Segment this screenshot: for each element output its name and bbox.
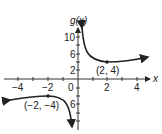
y-tick-label: 6 (70, 49, 76, 60)
y-tick-label: 2 (70, 65, 76, 76)
x-tick-label: 0 (68, 82, 74, 93)
graph: −4 −2 0 2 4 10 6 2 6 g(x) x (2, 4) (−2, … (0, 0, 162, 134)
point-neg2-neg4 (46, 94, 50, 98)
annotation-neg2-neg4: (−2, −4) (24, 100, 59, 111)
y-axis-label: g(x) (70, 15, 87, 26)
y-tick-label: 6 (70, 99, 76, 110)
x-tick-label: 4 (134, 82, 140, 93)
point-2-4 (105, 60, 109, 64)
x-axis-label: x (152, 73, 159, 84)
y-tick-label: 10 (64, 32, 76, 43)
curve-right-branch (82, 28, 148, 62)
x-tick-label: −4 (12, 82, 24, 93)
annotation-2-4: (2, 4) (96, 65, 119, 76)
x-tick-label: −2 (42, 82, 54, 93)
x-tick-label: 2 (104, 82, 110, 93)
